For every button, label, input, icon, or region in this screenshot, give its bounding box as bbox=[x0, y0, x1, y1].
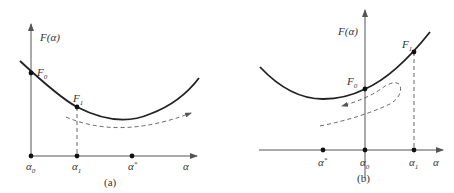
caption-b: (b) bbox=[357, 172, 370, 185]
label-F0: F0 bbox=[346, 75, 358, 90]
search-direction-arrow bbox=[66, 113, 191, 128]
tick-alpha1 bbox=[412, 148, 417, 153]
label-alpha1: α1 bbox=[72, 160, 81, 175]
label-alpha-star: α* bbox=[318, 156, 328, 168]
caption-a: (a) bbox=[104, 176, 117, 189]
tick-alpha1 bbox=[75, 154, 80, 159]
label-F0: F0 bbox=[36, 66, 48, 81]
label-alpha1: α1 bbox=[409, 156, 418, 171]
x-axis-label: α bbox=[433, 156, 439, 168]
point-F0 bbox=[363, 87, 368, 92]
y-axis-label: F(α) bbox=[39, 31, 60, 44]
tick-alpha0 bbox=[29, 154, 34, 159]
panel-b: F(α) F0 F1 α* α0 α1 α (b) bbox=[259, 10, 443, 185]
label-alpha0: α0 bbox=[360, 156, 370, 171]
label-alpha0: α0 bbox=[26, 160, 36, 175]
tick-alpha-star bbox=[321, 148, 326, 153]
point-F0 bbox=[29, 71, 34, 76]
label-F1: F1 bbox=[401, 38, 412, 53]
objective-curve bbox=[20, 61, 199, 120]
search-direction-loop bbox=[320, 83, 401, 126]
point-F1 bbox=[75, 105, 80, 110]
panel-a: F(α) F0 F1 α0 α1 α* α (a) bbox=[20, 24, 199, 189]
y-axis-label: F(α) bbox=[337, 25, 358, 38]
tick-alpha0 bbox=[363, 148, 368, 153]
point-F1 bbox=[412, 50, 417, 55]
x-axis-label: α bbox=[183, 160, 189, 172]
line-search-figure: F(α) F0 F1 α0 α1 α* α (a) F(α) F0 F1 α* bbox=[0, 0, 454, 193]
tick-alpha-star bbox=[130, 154, 135, 159]
label-alpha-star: α* bbox=[128, 160, 138, 172]
